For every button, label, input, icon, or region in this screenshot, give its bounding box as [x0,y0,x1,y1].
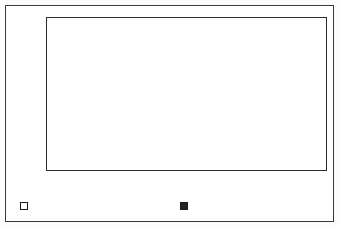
stacked-area-series [47,18,326,170]
legend-item-recycled-fiber [180,199,194,213]
plot-area [46,17,327,171]
y-axis [16,10,44,180]
chart-figure [0,0,339,227]
legend-item-virgin-fiber [20,199,34,213]
black-square-icon [180,202,188,210]
chart-legend [14,199,326,215]
white-square-icon [20,202,28,210]
